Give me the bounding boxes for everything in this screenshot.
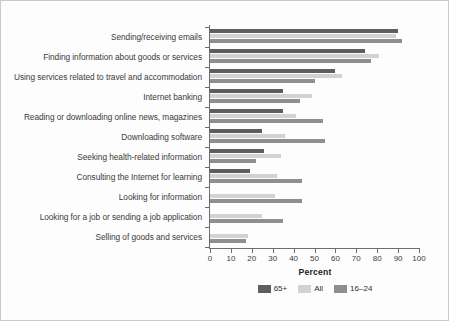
bar [210,99,300,103]
legend-label: All [314,284,323,293]
bar [210,94,312,98]
category-label: Consulting the Internet for learning [9,167,207,187]
bar [210,29,398,33]
category-label: Internet banking [9,87,207,107]
bar [210,54,379,58]
x-axis-tick-label: 70 [345,254,367,263]
bar [210,169,250,173]
legend-label: 16–24 [350,284,372,293]
x-axis-tick-label: 50 [304,254,326,263]
y-axis-tick [205,227,209,228]
bar [210,149,264,153]
x-axis-tick [315,249,316,253]
legend-swatch-icon [258,285,271,293]
bar-group [210,167,419,187]
x-axis-tick-label: 80 [366,254,388,263]
bar [210,239,246,243]
category-label: Looking for a job or sending a job appli… [9,207,207,227]
category-label: Sending/receiving emails [9,27,207,47]
y-axis-tick [205,247,209,248]
bar [210,139,325,143]
x-axis-tick [273,249,274,253]
bar [210,89,283,93]
x-axis-tick [294,249,295,253]
bar [210,129,262,133]
category-label: Downloading software [9,127,207,147]
y-axis-tick [205,187,209,188]
bar-group [210,207,419,227]
bar-group [210,127,419,147]
y-axis-line [209,25,210,249]
bar-group [210,187,419,207]
bar-group [210,27,419,47]
category-label: Selling of goods and services [9,227,207,247]
bar [210,119,323,123]
bar-group [210,47,419,67]
legend-item[interactable]: 65+ [258,284,288,293]
bar [210,179,302,183]
x-axis-tick [398,249,399,253]
bar-series-container [210,27,419,247]
chart-frame: Sending/receiving emailsFinding informat… [0,0,449,321]
y-axis-tick [205,207,209,208]
x-axis-tick [252,249,253,253]
bar [210,134,285,138]
category-label: Using services related to travel and acc… [9,67,207,87]
legend-swatch-icon [334,285,347,293]
bar-group [210,107,419,127]
category-label: Seeking health-related information [9,147,207,167]
x-axis-tick [419,249,420,253]
x-axis-tick [231,249,232,253]
bar-group [210,87,419,107]
category-axis-labels: Sending/receiving emailsFinding informat… [9,27,207,247]
bar-group [210,147,419,167]
bar [210,159,256,163]
x-axis-tick [356,249,357,253]
x-axis-tick-label: 40 [283,254,305,263]
y-axis-tick [205,107,209,108]
y-axis-tick [205,147,209,148]
x-axis-tick-label: 0 [199,254,221,263]
bar [210,59,371,63]
x-axis-tick-label: 60 [324,254,346,263]
bar [210,79,315,83]
x-axis-tick-label: 90 [387,254,409,263]
bar [210,109,283,113]
x-axis-tick-label: 100 [408,254,430,263]
legend-item[interactable]: 16–24 [334,284,372,293]
bar [210,34,396,38]
y-axis-tick [205,167,209,168]
bar [210,114,296,118]
bar [210,234,248,238]
x-axis-tick [377,249,378,253]
x-axis-tick [335,249,336,253]
bar [210,154,281,158]
x-axis-tick [210,249,211,253]
y-axis-tick [205,47,209,48]
bar-group [210,67,419,87]
y-axis-tick [205,87,209,88]
bar [210,39,402,43]
bar [210,74,342,78]
bar [210,174,277,178]
y-axis-tick [205,27,209,28]
bar [210,194,275,198]
bar [210,49,365,53]
y-axis-tick [205,67,209,68]
chart-legend: 65+All16–24 [210,284,420,293]
category-label: Looking for information [9,187,207,207]
bar [210,199,302,203]
x-axis-tick-label: 10 [220,254,242,263]
category-label: Reading or downloading online news, maga… [9,107,207,127]
plot-area: Sending/receiving emailsFinding informat… [1,1,449,321]
bar [210,219,283,223]
x-axis-tick-label: 20 [241,254,263,263]
legend-swatch-icon [298,285,311,293]
bar-group [210,227,419,247]
legend-item[interactable]: All [298,284,323,293]
legend-label: 65+ [274,284,288,293]
y-axis-tick [205,127,209,128]
x-axis-tick-label: 30 [262,254,284,263]
x-axis-title: Percent [210,267,420,277]
category-label: Finding information about goods or servi… [9,47,207,67]
